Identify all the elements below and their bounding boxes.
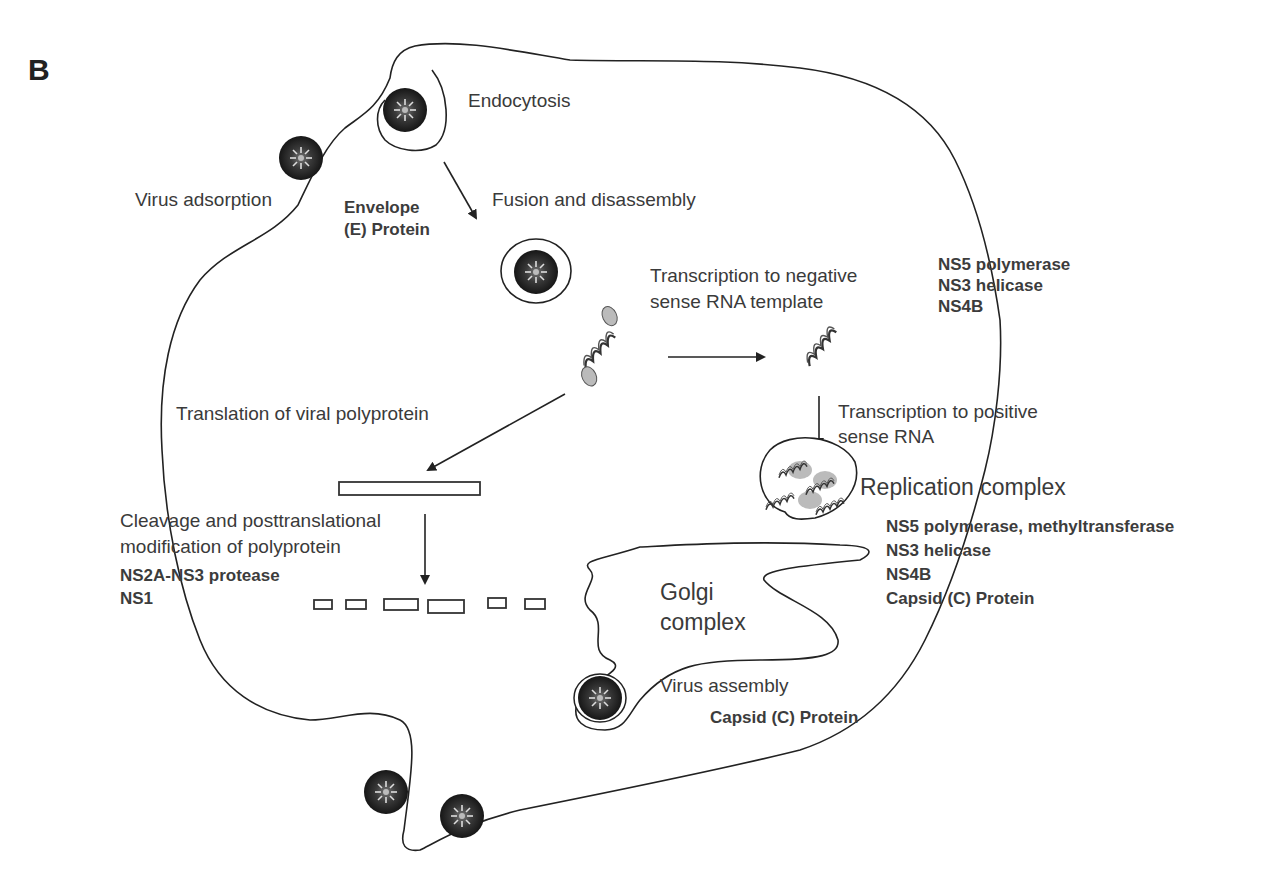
protein-rep-4: Capsid (C) Protein: [886, 589, 1034, 608]
viral-polyprotein: [339, 482, 480, 495]
protein-envelope-2: (E) Protein: [344, 220, 430, 239]
protein-neg-1: NS5 polymerase: [938, 255, 1070, 274]
label-translation: Translation of viral polyprotein: [176, 403, 429, 424]
label-cleavage-1: Cleavage and posttranslational: [120, 510, 381, 531]
negative-sense-rna: [798, 325, 845, 366]
label-virus-adsorption: Virus adsorption: [135, 189, 272, 210]
label-pos-transcription-2: sense RNA: [838, 426, 934, 447]
flavivirus-life-cycle-diagram: B: [0, 0, 1282, 876]
panel-label: B: [28, 53, 50, 86]
protein-rep-1: NS5 polymerase, methyltransferase: [886, 517, 1174, 536]
protein-envelope-1: Envelope: [344, 198, 420, 217]
protein-rep-3: NS4B: [886, 565, 931, 584]
virion-released-2: [440, 794, 484, 838]
label-cleavage-2: modification of polyprotein: [120, 536, 341, 557]
virion-in-endosome: [514, 250, 558, 294]
label-replication-complex: Replication complex: [860, 474, 1066, 500]
virion-assembly: [578, 676, 622, 720]
label-pos-transcription-1: Transcription to positive: [838, 401, 1038, 422]
protein-assembly: Capsid (C) Protein: [710, 708, 858, 727]
viral-rna-genome: [559, 304, 639, 388]
label-endocytosis: Endocytosis: [468, 90, 570, 111]
replication-complex: [760, 438, 856, 519]
cleaved-proteins: [314, 598, 545, 613]
virion-released-1: [364, 770, 408, 814]
arrow-to-translation: [428, 394, 565, 470]
protein-cleavage-1: NS2A-NS3 protease: [120, 566, 280, 585]
label-fusion: Fusion and disassembly: [492, 189, 696, 210]
virion-endocytosis: [383, 88, 427, 132]
label-golgi-2: complex: [660, 609, 746, 635]
label-neg-transcription-1: Transcription to negative: [650, 265, 857, 286]
protein-cleavage-2: NS1: [120, 589, 153, 608]
arrow-to-fusion: [444, 162, 476, 218]
protein-neg-3: NS4B: [938, 297, 983, 316]
label-virus-assembly: Virus assembly: [660, 675, 789, 696]
protein-rep-2: NS3 helicase: [886, 541, 991, 560]
label-neg-transcription-2: sense RNA template: [650, 291, 823, 312]
protein-neg-2: NS3 helicase: [938, 276, 1043, 295]
label-golgi-1: Golgi: [660, 579, 714, 605]
virion-adsorbing: [279, 136, 323, 180]
